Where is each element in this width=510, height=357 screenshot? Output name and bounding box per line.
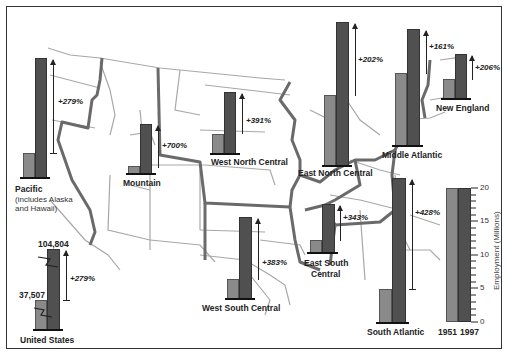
y-axis-label: Employment (Millions): [492, 211, 501, 290]
tick-label: 20: [480, 183, 489, 192]
legend-year-1997: 1997: [460, 327, 479, 337]
legend-year-1951: 1951: [438, 327, 457, 337]
tick-label: 0: [480, 317, 484, 326]
tick-label: 15: [480, 216, 489, 225]
tick-label: 5: [480, 283, 484, 292]
tick-label: 10: [480, 250, 489, 259]
scale-ticks: [0, 0, 510, 357]
